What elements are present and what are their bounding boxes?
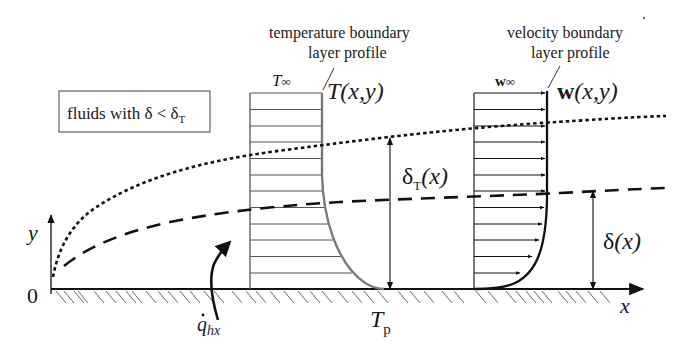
boundary-layer-figure: fluids with δ < δT y 0 x xyxy=(0,0,674,361)
legend-box: fluids with δ < δT xyxy=(59,91,210,132)
velocity-freestream-label: w∞ xyxy=(495,73,515,89)
wall-hatching xyxy=(56,291,610,303)
velocity-boundary-dashed-curve xyxy=(64,188,666,266)
velocity-caption-line2: layer profile xyxy=(531,44,610,62)
y-axis-label: y xyxy=(26,220,38,245)
velocity-thickness-label: δ(x) xyxy=(603,228,641,254)
thermal-boundary-dotted-curve xyxy=(53,116,666,277)
heat-flux-arrow xyxy=(211,245,227,320)
velocity-function-label: w(x,y) xyxy=(557,78,618,104)
temperature-profile-curve xyxy=(322,93,384,289)
temperature-freestream-label: T∞ xyxy=(272,71,291,90)
thermal-thickness-label: δT(x) xyxy=(402,163,448,193)
x-axis-label: x xyxy=(619,293,630,318)
temperature-caption-line1: temperature boundary xyxy=(269,24,410,42)
heat-flux-dot xyxy=(202,314,205,317)
svg-text:fluids with δ < δT: fluids with δ < δT xyxy=(67,104,186,125)
velocity-caption-line1: velocity boundary xyxy=(507,24,623,42)
origin-label: 0 xyxy=(27,283,38,308)
stray-dot xyxy=(643,17,645,19)
velocity-profile xyxy=(474,91,547,289)
wall-temperature-label: Tp xyxy=(370,306,391,337)
temperature-function-label: T(x,y) xyxy=(327,78,384,104)
temperature-profile xyxy=(250,93,384,289)
temperature-caption-line2: layer profile xyxy=(308,44,387,62)
velocity-profile-curve xyxy=(474,91,547,289)
